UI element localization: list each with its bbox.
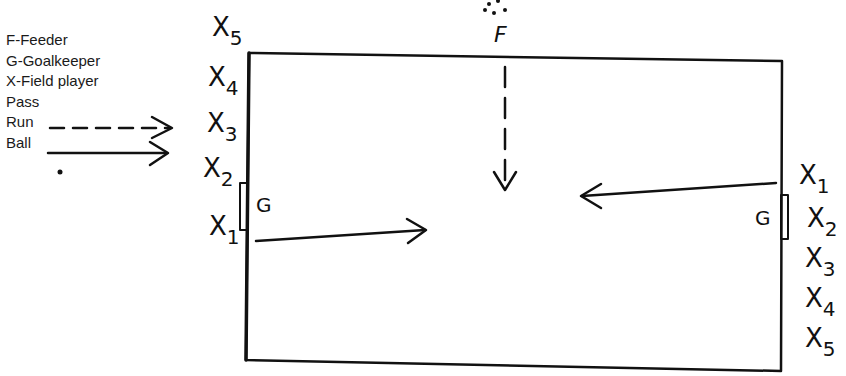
field-diagram bbox=[0, 0, 846, 376]
feeder-label: F bbox=[494, 22, 507, 47]
left-run-arrow-icon bbox=[256, 219, 426, 243]
right-run-arrow-icon bbox=[581, 183, 776, 208]
right-player-4: X4 bbox=[805, 285, 836, 319]
right-player-5: X5 bbox=[805, 325, 836, 359]
right-player-1: X1 bbox=[799, 162, 830, 196]
left-player-4: X4 bbox=[208, 64, 239, 98]
legend-pass-arrow-icon bbox=[50, 117, 172, 138]
left-player-5: X5 bbox=[212, 14, 243, 48]
legend-ball-icon bbox=[58, 170, 63, 175]
right-player-3: X3 bbox=[805, 245, 836, 279]
right-goalkeeper-label: G bbox=[755, 206, 771, 230]
legend-run-arrow-icon bbox=[48, 142, 168, 165]
right-player-2: X2 bbox=[807, 205, 838, 239]
left-player-3: X3 bbox=[207, 110, 238, 144]
feeder-pass-arrow-icon bbox=[494, 67, 516, 190]
ball-icon bbox=[483, 0, 507, 15]
field-boundary bbox=[246, 53, 782, 371]
left-player-2: X2 bbox=[203, 155, 234, 189]
left-goalkeeper-label: G bbox=[256, 193, 272, 217]
left-player-1: X1 bbox=[209, 213, 240, 247]
